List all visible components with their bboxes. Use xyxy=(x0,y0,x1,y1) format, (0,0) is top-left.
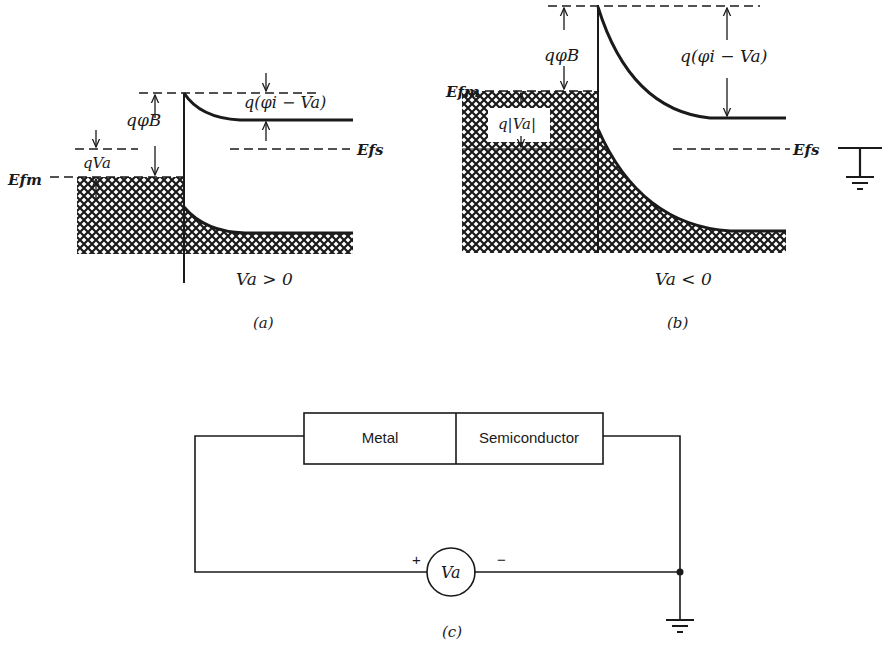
panel-b: qφB q(φi − Va) Efm q|Va| Efs Va < 0 (b) xyxy=(445,5,882,332)
metal-filled-states-a xyxy=(77,177,184,254)
schottky-band-diagram-figure: qφB q(φi − Va) Efs qVa Efm Va > 0 (a) xyxy=(0,0,893,646)
efs-label-b: Efs xyxy=(792,141,820,159)
q-phi-b-label-b: qφB xyxy=(544,45,579,65)
minus-sign: − xyxy=(497,551,506,568)
metal-label: Metal xyxy=(362,429,399,446)
efs-label-a: Efs xyxy=(356,141,384,159)
caption-b: (b) xyxy=(667,314,688,332)
condition-label-b: Va < 0 xyxy=(655,269,712,289)
efm-label-a: Efm xyxy=(7,171,42,189)
q-phi-i-minus-va-label-b: q(φi − Va) xyxy=(680,46,767,66)
q-abs-va-label-b: q|Va| xyxy=(498,115,536,133)
wire-left xyxy=(195,436,427,572)
efm-label-b: Efm xyxy=(445,83,480,101)
semiconductor-label: Semiconductor xyxy=(479,429,579,446)
voltage-source-label: Va xyxy=(441,563,461,582)
caption-a: (a) xyxy=(253,314,274,332)
caption-c: (c) xyxy=(442,623,462,641)
panel-c-circuit: Metal Semiconductor Va + − (c) xyxy=(195,413,694,641)
ground-icon-b xyxy=(838,148,882,189)
semiconductor-valence-band-a xyxy=(184,207,353,254)
q-phi-i-minus-va-label-a: q(φi − Va) xyxy=(244,93,326,112)
panel-a: qφB q(φi − Va) Efs qVa Efm Va > 0 (a) xyxy=(7,73,384,332)
ground-icon-c xyxy=(666,620,694,632)
condition-label-a: Va > 0 xyxy=(236,269,293,289)
node-dot xyxy=(677,569,684,576)
q-phi-b-label-a: qφB xyxy=(126,110,161,130)
semiconductor-valence-band-b xyxy=(598,129,786,253)
plus-sign: + xyxy=(412,551,421,568)
q-va-label-a: qVa xyxy=(83,154,111,172)
